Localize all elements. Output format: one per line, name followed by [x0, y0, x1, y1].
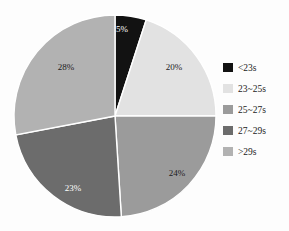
- pie-chart-figure: 5%20%24%23%28% <23s23~25s25~27s27~29s>29…: [0, 0, 289, 231]
- legend-color-swatch-icon: [223, 126, 233, 135]
- legend-item[interactable]: 23~25s: [223, 83, 289, 94]
- pie-chart-svg: [0, 0, 220, 231]
- pie-slice[interactable]: [115, 116, 216, 217]
- legend-color-swatch-icon: [223, 84, 233, 93]
- legend-item[interactable]: <23s: [223, 62, 289, 73]
- legend-color-swatch-icon: [223, 147, 233, 156]
- legend-item-label: <23s: [238, 63, 257, 73]
- legend-item-label: 23~25s: [238, 84, 266, 94]
- pie-chart-plot-area: 5%20%24%23%28%: [0, 0, 220, 231]
- legend-item-label: 27~29s: [238, 126, 266, 136]
- legend-color-swatch-icon: [223, 105, 233, 114]
- legend-item[interactable]: 25~27s: [223, 104, 289, 115]
- pie-slice[interactable]: [14, 15, 115, 135]
- legend-item-label: 25~27s: [238, 105, 266, 115]
- legend-item-label: >29s: [238, 147, 257, 157]
- legend-color-swatch-icon: [223, 63, 233, 72]
- legend-item[interactable]: >29s: [223, 146, 289, 157]
- legend-item[interactable]: 27~29s: [223, 125, 289, 136]
- chart-legend: <23s23~25s25~27s27~29s>29s: [223, 62, 289, 167]
